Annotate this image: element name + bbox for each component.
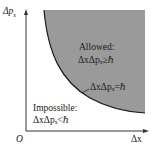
y-axis-label-text: Δp: [3, 6, 13, 16]
curve-label: ΔxΔpₓ=ℏ: [90, 82, 126, 92]
diagram-canvas: [0, 0, 154, 149]
impossible-title: Impossible:: [33, 103, 77, 113]
y-axis-label: Δpx: [3, 6, 16, 20]
y-axis-label-subscript: x: [13, 12, 16, 18]
uncertainty-diagram: Δpx O Δx Allowed: ΔxΔpₓ≥ℏ ΔxΔpₓ=ℏ Imposs…: [0, 0, 154, 149]
x-axis-label: Δx: [131, 134, 142, 144]
y-axis-arrow-icon: [24, 9, 28, 15]
allowed-title: Allowed:: [79, 42, 114, 52]
x-axis-arrow-icon: [143, 129, 149, 133]
allowed-relation: ΔxΔpₓ≥ℏ: [78, 55, 114, 65]
impossible-relation: ΔxΔpₓ<ℏ: [33, 115, 69, 125]
origin-label: O: [16, 134, 23, 144]
